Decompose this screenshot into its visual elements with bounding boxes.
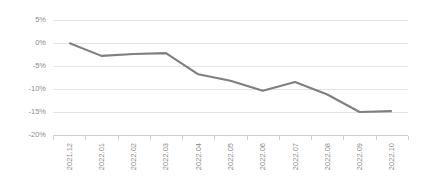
y-axis-tick-label: -5%: [33, 61, 47, 70]
chart-canvas: 5%0%-5%-10%-15%-20% 2021.122022.012022.0…: [0, 0, 423, 185]
y-axis-tick-label: 0%: [35, 38, 46, 47]
x-axis-tick-label: 2022.08: [323, 143, 332, 170]
x-axis-tick-label: 2022.06: [258, 143, 267, 170]
x-axis-tick-label: 2021.12: [65, 143, 74, 170]
x-axis-tick-label: 2022.09: [355, 143, 364, 170]
y-axis-tick-label: 5%: [35, 15, 46, 24]
x-axis-tick-label: 2022.02: [129, 143, 138, 170]
x-axis-tick-label: 2022.07: [291, 143, 300, 170]
x-axis-tick-label: 2022.03: [161, 143, 170, 170]
x-axis-tick-label: 2022.01: [97, 143, 106, 170]
x-axis-tick-label: 2022.05: [226, 143, 235, 170]
y-axis-tick-label: -10%: [28, 84, 46, 93]
y-axis-tick-label: -15%: [28, 107, 46, 116]
x-axis-tick-label: 2022.04: [194, 143, 203, 170]
x-axis-tick-label: 2022.10: [387, 143, 396, 170]
line-chart: 5%0%-5%-10%-15%-20% 2021.122022.012022.0…: [0, 0, 423, 185]
y-axis-tick-label: -20%: [28, 130, 46, 139]
